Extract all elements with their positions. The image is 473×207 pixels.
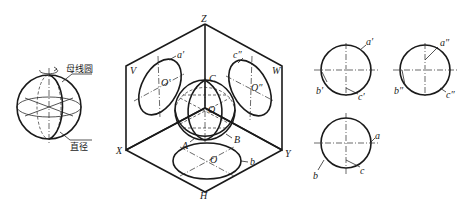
axis-y-label: Y [285,148,292,159]
plane-h-label: H [199,190,208,201]
point-c2-label: c″ [233,49,242,60]
front-c-label: c′ [358,91,365,102]
label-generatrix-circle: 母线圆 [66,63,93,74]
front-b-label: b′ [316,85,324,96]
side-a-label: a″ [440,37,450,48]
center-o1-label: O′ [161,77,171,88]
point-A-label: A [181,140,189,151]
top-view [314,113,378,174]
side-b-label: b″ [394,85,404,96]
left-sphere [17,67,92,145]
side-c-label: c″ [446,89,455,100]
point-a1-label: a′ [177,49,185,60]
axis-z-label: Z [201,13,207,24]
center-o2-label: O″ [251,82,263,93]
label-diameter: 直径 [70,141,88,152]
front-a-label: a′ [366,36,374,47]
point-b-label: b [250,156,255,167]
projection-box [126,24,282,192]
h-center-label: O [210,154,217,165]
sphere-projection-diagram: 母线圆 直径 [0,0,473,207]
sphere-center-label: O [208,104,215,115]
top-b-label: b [313,170,318,181]
plane-w-label: W [272,65,282,76]
plane-v-label: V [130,65,138,76]
top-a-label: a [375,130,380,141]
axis-x-label: X [115,145,123,156]
point-C-label: C [209,73,216,84]
point-B-label: B [234,134,240,145]
top-c-label: c [360,165,365,176]
front-view [314,43,378,98]
